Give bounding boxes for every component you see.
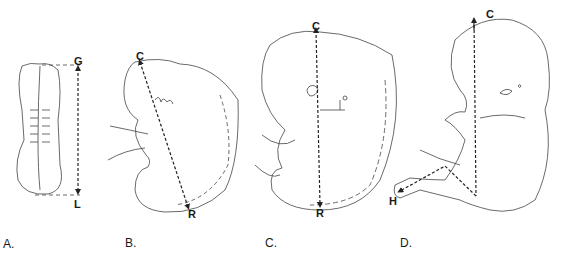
measure-line-d-vertical <box>474 20 476 196</box>
label-l: L <box>74 198 81 210</box>
panel-label-c: C. <box>265 236 277 250</box>
measure-line-b <box>140 62 188 207</box>
label-g: G <box>74 55 83 67</box>
fetus-d-outline <box>394 19 549 211</box>
label-c-c: C <box>312 20 320 32</box>
embryo-b-outline <box>108 59 238 212</box>
label-r-b: R <box>188 208 196 220</box>
label-c-b: C <box>136 50 144 62</box>
label-c-d: C <box>486 8 494 20</box>
panel-label-a: A. <box>3 237 14 251</box>
panel-label-b: B. <box>125 236 136 250</box>
label-r-c: R <box>316 207 324 219</box>
embryo-a-outline <box>17 63 62 194</box>
label-h: H <box>389 195 397 207</box>
measure-line-c <box>316 30 320 205</box>
panel-label-d: D. <box>400 236 412 250</box>
embryo-c-outline <box>255 31 396 210</box>
measure-line-d-leg <box>400 166 476 196</box>
embryo-measurement-diagram <box>0 0 561 257</box>
